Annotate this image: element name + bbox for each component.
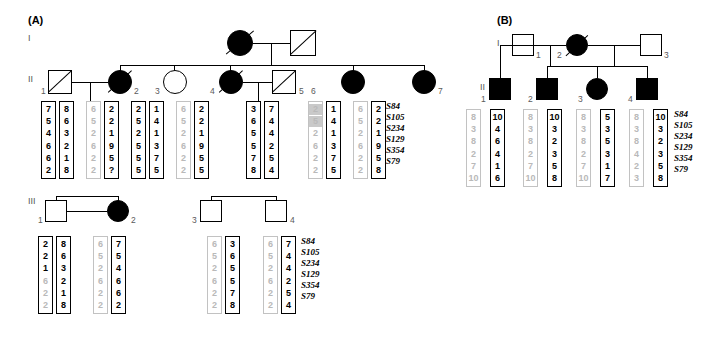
allele-value: 1 [60, 153, 73, 164]
allele-value: 6 [264, 276, 277, 287]
haplotype-column[interactable]: 744254 [281, 236, 296, 314]
panel-b-id-II-4: 4 [628, 94, 633, 104]
allele-value: 2 [42, 165, 55, 176]
haplotype-column[interactable]: 652622 [263, 236, 278, 314]
allele-value: 6 [60, 116, 73, 127]
haplotype-column[interactable]: 1032358 [653, 109, 668, 187]
allele-value: 4 [265, 128, 278, 139]
panel-b-individual-II-4[interactable] [636, 78, 658, 100]
panel-b-individual-II-3[interactable] [586, 78, 608, 100]
haplotype-column[interactable]: 221622 [38, 236, 53, 314]
haplotype-column[interactable]: 8382710 [466, 109, 481, 187]
allele-value: 2 [309, 153, 322, 164]
haplotype-column[interactable]: 1046416 [490, 109, 505, 187]
haplotype-column[interactable]: 744254 [264, 101, 279, 179]
allele-value: 3 [654, 149, 667, 160]
panel-b-gen2-label: II [480, 82, 485, 92]
marker-label: S105 [386, 112, 405, 123]
allele-value: 3 [548, 149, 561, 160]
haplotype-column[interactable]: 22195? [104, 101, 119, 179]
allele-value: 8 [654, 173, 667, 184]
panel-a-individual-III-2[interactable] [107, 200, 129, 222]
haplotype-column[interactable]: 754662 [111, 236, 126, 314]
allele-value: 2 [60, 141, 73, 152]
allele-value: 3 [630, 124, 643, 135]
allele-value: 3 [467, 124, 480, 135]
allele-value: 3 [601, 124, 614, 135]
haplotype-column[interactable]: 1032358 [547, 109, 562, 187]
allele-value: 6 [208, 239, 221, 250]
panel-b-individual-II-1[interactable] [489, 78, 511, 100]
allele-value: 2 [524, 149, 537, 160]
haplotype-column[interactable]: 8382710 [523, 109, 538, 187]
allele-value: 6 [491, 173, 504, 184]
panel-a-individual-III-3[interactable] [200, 200, 222, 222]
panel-a-id-II-4: 4 [210, 86, 215, 96]
allele-value: 8 [524, 112, 537, 123]
allele-value: 3 [601, 149, 614, 160]
haplotype-column[interactable]: 141375 [326, 101, 341, 179]
haplotype-column[interactable]: 252555 [131, 101, 146, 179]
haplotype-column[interactable]: 535317 [600, 109, 615, 187]
allele-value: 7 [265, 104, 278, 115]
panel-b-individual-I-3[interactable] [640, 34, 662, 56]
haplotype-column[interactable]: 652622 [93, 236, 108, 314]
haplotype-column[interactable]: 221958 [371, 101, 386, 179]
allele-value: 2 [177, 153, 190, 164]
allele-value: 6 [226, 251, 239, 262]
haplotype-column[interactable]: 652622 [207, 236, 222, 314]
haplotype-column[interactable]: 652622 [353, 101, 368, 179]
allele-value: 7 [467, 161, 480, 172]
allele-value: 6 [112, 288, 125, 299]
allele-value: 7 [247, 153, 260, 164]
haplotype-column[interactable]: 863218 [56, 236, 71, 314]
allele-value: 5 [654, 161, 667, 172]
allele-value: 6 [87, 141, 100, 152]
sibship-line-gen3-right [211, 196, 276, 197]
panel-a-id-III-1: 1 [38, 215, 43, 225]
panel-a-individual-III-1[interactable] [45, 200, 67, 222]
allele-value: 5 [132, 141, 145, 152]
haplotype-column[interactable]: 863218 [59, 101, 74, 179]
allele-value: 6 [177, 141, 190, 152]
panel-a-individual-II-3[interactable] [163, 70, 187, 94]
marker-labels-gen3: S84S105S234S129S354S79 [301, 236, 320, 302]
panel-a-individual-II-6[interactable] [341, 70, 365, 94]
haplotype-column[interactable]: 8382710 [576, 109, 591, 187]
allele-value: 1 [491, 161, 504, 172]
allele-value: 8 [60, 104, 73, 115]
allele-value: 6 [177, 104, 190, 115]
allele-value: 6 [208, 276, 221, 287]
haplotype-column[interactable]: 365578 [225, 236, 240, 314]
haplotype-column[interactable]: 652622 [86, 101, 101, 179]
haplotype-column[interactable]: 838423 [629, 109, 644, 187]
haplotype-column[interactable]: 221955 [194, 101, 209, 179]
allele-value: 2 [372, 104, 385, 115]
allele-value: 4 [491, 124, 504, 135]
allele-value: 4 [282, 263, 295, 274]
allele-value: 2 [264, 263, 277, 274]
allele-value: 8 [577, 112, 590, 123]
panel-a-id-II-6: 6 [311, 86, 316, 96]
allele-value: 2 [467, 149, 480, 160]
haplotype-column[interactable]: 141375 [149, 101, 164, 179]
haplotype-column[interactable]: 365578 [246, 101, 261, 179]
panel-a-id-II-5: 5 [299, 86, 304, 96]
allele-value: 2 [354, 128, 367, 139]
panel-a-individual-III-4[interactable] [265, 200, 287, 222]
haplotype-column[interactable]: 754662 [41, 101, 56, 179]
allele-value: 8 [630, 136, 643, 147]
allele-value: 5 [282, 288, 295, 299]
panel-b-individual-II-2[interactable] [536, 78, 558, 100]
allele-value: 3 [150, 141, 163, 152]
allele-value: 2 [105, 116, 118, 127]
panel-b-id-II-1: 1 [481, 94, 486, 104]
allele-value: 2 [39, 288, 52, 299]
allele-value: 1 [195, 128, 208, 139]
panel-a-individual-II-7[interactable] [412, 70, 436, 94]
haplotype-column[interactable]: 252622 [308, 101, 323, 179]
haplotype-column[interactable]: 652622 [176, 101, 191, 179]
allele-value: 2 [94, 288, 107, 299]
allele-value: 6 [264, 239, 277, 250]
allele-value: 3 [630, 173, 643, 184]
